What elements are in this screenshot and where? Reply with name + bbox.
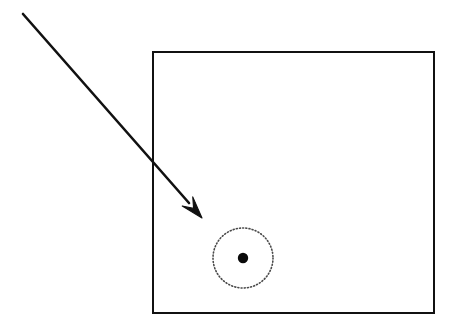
diagram-canvas: [0, 0, 454, 325]
diagram-background: [0, 0, 454, 325]
diagram-svg: [0, 0, 454, 325]
center-dot: [238, 253, 248, 263]
